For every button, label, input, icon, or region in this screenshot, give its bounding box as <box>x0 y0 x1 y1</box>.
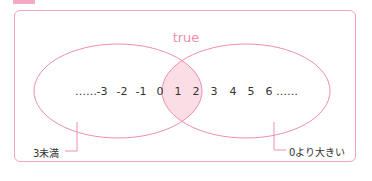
number-item: …… <box>75 85 97 98</box>
number-item: -1 <box>136 85 147 98</box>
left-set-label: 3未満 <box>33 145 59 160</box>
number-item: 1 <box>175 85 182 98</box>
right-set-label: 0より大きい <box>289 144 345 159</box>
intersection-label: true <box>173 30 200 45</box>
right-leader-line <box>274 122 286 150</box>
number-item: 0 <box>157 85 164 98</box>
number-item: 6 <box>266 85 273 98</box>
number-item: -2 <box>117 85 128 98</box>
number-item: …… <box>276 85 298 98</box>
number-item: 2 <box>193 85 200 98</box>
number-item: -3 <box>97 85 108 98</box>
intersection-region <box>162 44 330 138</box>
number-item: 5 <box>248 85 255 98</box>
left-leader-line <box>65 122 77 151</box>
number-item: 3 <box>211 85 218 98</box>
number-item: 4 <box>230 85 237 98</box>
